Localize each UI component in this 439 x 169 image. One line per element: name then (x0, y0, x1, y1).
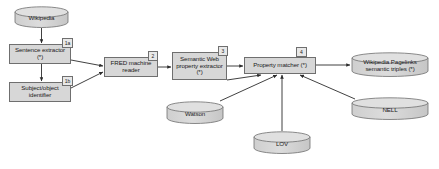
badge-2: 2 (148, 51, 158, 61)
node-label: FRED machine reader (107, 60, 155, 74)
edge-subjobj-to-fred (71, 72, 103, 88)
node-label: NELL (351, 104, 429, 114)
node-label: Property matcher (*) (253, 62, 307, 69)
node-watson[interactable]: Watson (166, 101, 224, 124)
node-label: Wikipedia (14, 12, 69, 22)
badge-1a: 1a (62, 38, 73, 48)
node-wikipedia[interactable]: Wikipedia (14, 6, 69, 28)
badge-3: 3 (218, 46, 228, 56)
badge-1b: 1b (62, 76, 73, 86)
badge-4: 4 (296, 47, 307, 57)
node-label: LOV (253, 138, 311, 148)
node-label: Watson (166, 108, 224, 118)
diagram-canvas: Wikipedia Sentence extractor (*) 1a Subj… (0, 0, 439, 169)
node-label: Wikipedia Pagelinks semantic triples (*) (351, 56, 429, 73)
node-label: Semantic Web property extractor (*) (175, 56, 224, 77)
node-label: Subject/object identifier (12, 85, 68, 99)
node-lov[interactable]: LOV (253, 131, 311, 154)
node-nell[interactable]: NELL (351, 97, 429, 120)
node-wikipedia-pagelinks[interactable]: Wikipedia Pagelinks semantic triples (*) (351, 52, 429, 77)
node-semantic-web-property-extractor[interactable]: Semantic Web property extractor (*) (172, 52, 227, 80)
node-property-matcher[interactable]: Property matcher (*) (244, 57, 316, 74)
edge-nell-to-matcher (300, 75, 355, 99)
edge-sentence-to-fred (71, 60, 103, 66)
edge-watson-to-matcher (220, 75, 277, 101)
node-label: Sentence extractor (*) (12, 47, 68, 61)
edge-swpe-lower-to-matcher (227, 75, 261, 80)
